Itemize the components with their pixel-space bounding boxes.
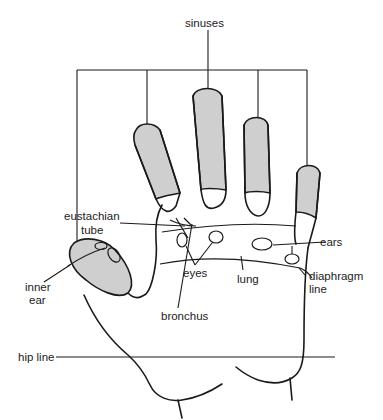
label-inner-ear-2: ear: [29, 294, 46, 306]
hand-reflexology-diagram: sinuses eustachian tube inner ear eyes b…: [0, 0, 383, 420]
label-ears: ears: [320, 236, 343, 248]
label-lung: lung: [237, 273, 259, 285]
eye-right: [209, 231, 223, 243]
label-diaphragm-line-2: line: [309, 283, 327, 295]
label-hip-line: hip line: [18, 351, 54, 363]
label-eustachian-tube: eustachian: [64, 210, 120, 222]
eye-left: [177, 233, 187, 247]
ear-oval-left: [252, 238, 272, 250]
label-diaphragm-line: diaphragm: [309, 270, 363, 282]
label-eyes: eyes: [183, 267, 208, 279]
label-eustachian-tube-2: tube: [81, 224, 103, 236]
ear-oval-right: [285, 254, 299, 264]
label-sinuses: sinuses: [185, 17, 224, 29]
label-bronchus: bronchus: [161, 310, 209, 322]
label-inner-ear: inner: [25, 281, 51, 293]
